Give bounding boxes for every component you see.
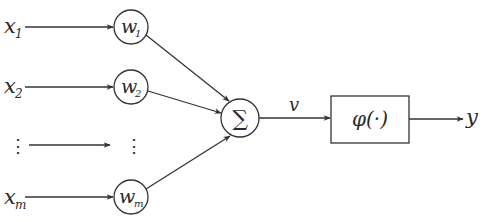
input-x2: x 2 bbox=[4, 74, 23, 101]
summation-node: ∑ bbox=[221, 99, 259, 137]
svg-text:1: 1 bbox=[135, 28, 141, 39]
arrow-w1-to-sum bbox=[146, 35, 229, 101]
input-ellipsis: ⋮ bbox=[9, 135, 27, 156]
weight-node-w2: w 2 bbox=[114, 70, 148, 104]
neuron-diagram: x 1 x 2 ⋮ x m w 1 w 2 ⋮ bbox=[0, 0, 484, 222]
svg-text:⋮: ⋮ bbox=[125, 135, 143, 156]
input-x1: x 1 bbox=[4, 14, 23, 41]
svg-text:m: m bbox=[15, 198, 26, 212]
induced-field-label: v bbox=[289, 94, 299, 115]
weight-node-wm: w m bbox=[114, 180, 148, 214]
activation-box: φ(·) bbox=[331, 96, 409, 143]
svg-text:⋮: ⋮ bbox=[9, 135, 27, 156]
svg-text:φ(·): φ(·) bbox=[352, 107, 388, 131]
output-label: y bbox=[465, 105, 479, 129]
input-xm: x m bbox=[4, 185, 26, 212]
diagram-svg: x 1 x 2 ⋮ x m w 1 w 2 ⋮ bbox=[0, 0, 484, 222]
svg-text:1: 1 bbox=[15, 27, 23, 41]
arrow-w2-to-sum bbox=[148, 91, 221, 113]
weight-node-w1: w 1 bbox=[114, 10, 148, 44]
weight-ellipsis: ⋮ bbox=[125, 135, 143, 156]
svg-text:2: 2 bbox=[134, 88, 141, 99]
svg-text:m: m bbox=[134, 198, 143, 209]
svg-text:w: w bbox=[119, 185, 135, 207]
svg-text:2: 2 bbox=[14, 87, 23, 101]
arrow-wm-to-sum bbox=[146, 136, 230, 189]
svg-text:∑: ∑ bbox=[232, 106, 248, 131]
